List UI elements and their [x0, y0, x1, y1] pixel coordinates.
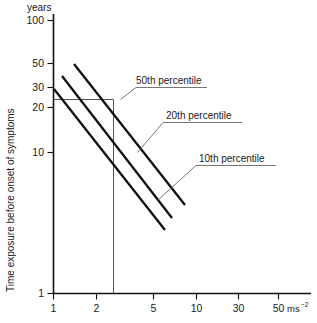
y-tick-label-10: 10 — [32, 146, 44, 158]
y-tick-label-100: 100 — [26, 14, 44, 26]
x-tick-label-50: 50 — [273, 302, 285, 314]
leader-line-20th-percentile — [138, 123, 243, 153]
series-label-50th-percentile: 50th percentile — [136, 75, 202, 86]
y-tick-label-1: 1 — [38, 287, 44, 299]
x-axis-unit-base: ms — [287, 303, 300, 314]
leader-line-50th-percentile — [121, 88, 208, 100]
y-tick-label-20: 20 — [32, 101, 44, 113]
y-tick-label-50: 50 — [32, 57, 44, 69]
x-axis-unit-exponent: −2 — [301, 301, 309, 308]
x-tick-label-30: 30 — [233, 302, 245, 314]
series-line-20th-percentile — [62, 76, 172, 218]
chart-figure: 100 50 30 20 10 1 1 2 5 10 30 50 ms −2 y… — [0, 0, 317, 323]
y-axis-unit-label: years — [27, 2, 51, 13]
x-tick-label-10: 10 — [191, 302, 203, 314]
x-tick-label-1: 1 — [51, 302, 57, 314]
y-tick-label-30: 30 — [32, 81, 44, 93]
y-axis-title: Time exposure before onset of symptoms — [5, 108, 16, 292]
x-tick-label-2: 2 — [94, 302, 100, 314]
x-tick-label-5: 5 — [151, 302, 157, 314]
leader-line-10th-percentile — [158, 166, 277, 201]
series-label-20th-percentile: 20th percentile — [166, 110, 232, 121]
series-label-10th-percentile: 10th percentile — [199, 153, 265, 164]
percentile-log-log-chart: 100 50 30 20 10 1 1 2 5 10 30 50 ms −2 y… — [0, 0, 317, 323]
